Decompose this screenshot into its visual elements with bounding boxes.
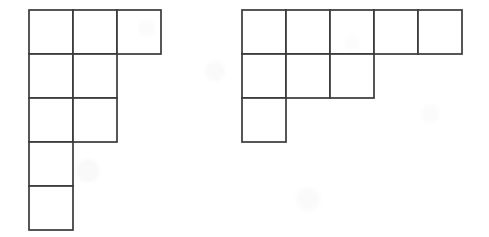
polyomino-square	[330, 10, 374, 54]
polyomino-square	[418, 10, 462, 54]
polyomino-square	[286, 10, 330, 54]
polyomino-square	[29, 186, 73, 230]
polyomino-square	[242, 10, 286, 54]
polyomino-square	[374, 10, 418, 54]
left-polyomino	[29, 10, 161, 230]
right-polyomino	[242, 10, 462, 142]
polyomino-square	[29, 98, 73, 142]
polyomino-square	[73, 54, 117, 98]
polyomino-square	[29, 142, 73, 186]
polyomino-square	[29, 10, 73, 54]
polyomino-diagram	[0, 0, 489, 237]
polyomino-square	[286, 54, 330, 98]
polyomino-square	[242, 54, 286, 98]
polyomino-square	[29, 54, 73, 98]
polyomino-square	[73, 98, 117, 142]
polyomino-square	[330, 54, 374, 98]
polyomino-square	[242, 98, 286, 142]
figure-canvas	[0, 0, 489, 237]
polyomino-square	[117, 10, 161, 54]
polyomino-square	[73, 10, 117, 54]
